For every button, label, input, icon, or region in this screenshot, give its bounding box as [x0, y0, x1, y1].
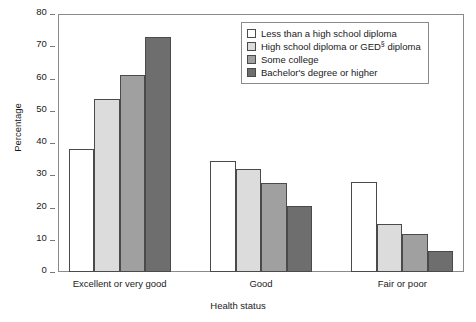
legend-label-base: High school diploma or GED — [261, 41, 381, 52]
legend-label: Bachelor's degree or higher — [261, 67, 377, 78]
y-axis-tick-mark — [50, 272, 55, 273]
legend-item: Less than a high school diploma — [247, 27, 421, 40]
bar — [120, 75, 146, 272]
legend-item: Bachelor's degree or higher — [247, 66, 421, 79]
y-axis-tick-label: 30 — [36, 168, 47, 178]
legend-item: Some college — [247, 53, 421, 66]
legend-label-tail: diploma — [385, 41, 421, 52]
y-axis-tick-label: 60 — [36, 72, 47, 82]
legend-label: Some college — [261, 54, 319, 65]
bar — [261, 183, 287, 272]
y-axis-tick-mark — [50, 14, 55, 15]
bar — [351, 182, 377, 272]
y-axis-tick-label: 80 — [36, 7, 47, 17]
y-axis-tick-label: 50 — [36, 104, 47, 114]
legend-label: High school diploma or GED§ diploma — [261, 41, 421, 52]
bar — [236, 169, 262, 272]
y-axis-tick-mark — [50, 240, 55, 241]
bar — [145, 37, 171, 272]
y-axis-tick-label: 10 — [36, 233, 47, 243]
y-axis-tick-label: 40 — [36, 136, 47, 146]
y-axis-tick-mark — [50, 143, 55, 144]
y-axis-tick-mark — [50, 208, 55, 209]
x-axis-category-label: Fair or poor — [312, 278, 476, 289]
legend-item: High school diploma or GED§ diploma — [247, 40, 421, 53]
bar — [402, 234, 428, 272]
legend-swatch — [247, 68, 256, 77]
bar — [377, 224, 403, 272]
y-axis: Percentage 01020304050607080 — [0, 0, 58, 322]
chart-legend: Less than a high school diplomaHigh scho… — [241, 22, 429, 84]
bar-chart-figure: Percentage 01020304050607080 Less than a… — [0, 0, 476, 322]
y-axis-tick-label: 70 — [36, 39, 47, 49]
legend-swatch — [247, 55, 256, 64]
legend-label: Less than a high school diploma — [261, 28, 397, 39]
bar — [69, 149, 95, 272]
bar — [210, 161, 236, 272]
y-axis-tick-label: 0 — [42, 265, 47, 275]
y-axis-label: Percentage — [12, 73, 23, 183]
legend-swatch — [247, 42, 256, 51]
y-axis-tick-mark — [50, 175, 55, 176]
y-axis-tick-mark — [50, 111, 55, 112]
bar — [428, 251, 454, 272]
y-axis-tick-mark — [50, 79, 55, 80]
x-axis-label: Health status — [0, 300, 476, 311]
bar — [287, 206, 313, 272]
bar — [94, 99, 120, 272]
y-axis-tick-label: 20 — [36, 201, 47, 211]
y-axis-tick-mark — [50, 46, 55, 47]
legend-swatch — [247, 29, 256, 38]
